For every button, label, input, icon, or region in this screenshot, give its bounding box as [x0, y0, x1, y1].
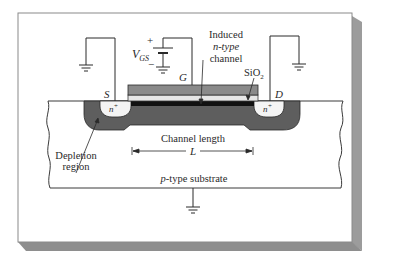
depletion-label-line1: Depletion: [55, 150, 97, 161]
channel-length-label: Channel length: [161, 133, 226, 144]
substrate-label: p-type substrate: [160, 173, 228, 184]
gate-label: G: [179, 71, 187, 83]
induced-channel-label-line1: Induced: [209, 29, 244, 40]
mosfet-diagram: + − VGS G S D Induced n-type channel SiO…: [0, 0, 396, 261]
L-label: L: [189, 145, 196, 157]
sio2-oxide-layer: [128, 95, 258, 101]
depletion-label-line2: region: [63, 161, 91, 172]
induced-channel: [131, 101, 254, 106]
drain-label: D: [274, 88, 283, 100]
vgs-plus-label: +: [147, 34, 153, 46]
gate-electrode: [128, 85, 258, 95]
source-label: S: [104, 88, 110, 100]
induced-channel-label-line2: n-type: [213, 41, 240, 52]
induced-channel-label-line3: channel: [210, 53, 243, 64]
